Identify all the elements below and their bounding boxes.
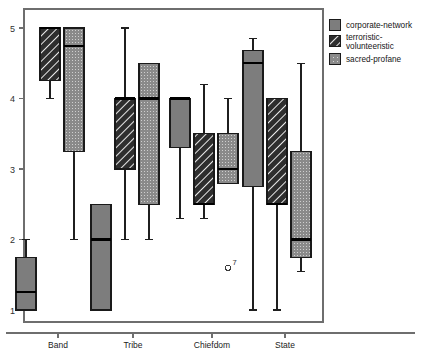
legend-swatch-terroristic-volunteeristic [329,35,340,46]
box-tribe-terroristic-volunteeristic [115,28,135,240]
x-label-chiefdom: Chiefdom [194,340,230,350]
box-series-layer [16,28,311,310]
box-rect [291,151,311,257]
legend-label-terroristic-line1: terroristic- [346,33,383,42]
boxplot-chart: 5 4 3 2 1 Band Tribe Chiefdom State 7 co… [0,0,421,358]
box-chiefdom-corporate-network [170,99,190,219]
box-tribe-corporate-network [91,204,111,310]
y-tick-label-4: 4 [10,94,15,104]
box-band-sacred-profane [64,28,84,240]
box-tribe-sacred-profane [139,63,159,239]
x-label-band: Band [48,340,68,350]
box-rect [91,204,111,310]
y-tick-label-1: 1 [10,306,15,316]
y-tick-label-5: 5 [10,24,15,34]
box-band-corporate-network [16,240,36,311]
box-state-sacred-profane [291,63,311,271]
x-label-state: State [275,340,295,350]
legend: corporate-network terroristic- volunteer… [329,19,413,64]
y-tick-label-3: 3 [10,165,15,175]
legend-swatch-corporate-network [329,19,340,30]
box-rect [115,99,135,170]
x-axis: Band Tribe Chiefdom State [6,333,415,350]
box-rect [40,28,60,81]
box-rect [267,99,287,205]
box-state-corporate-network [243,39,263,310]
box-rect [170,99,190,148]
outlier-marker [225,265,230,270]
box-chiefdom-sacred-profane [218,99,238,184]
plot-canvas: 5 4 3 2 1 Band Tribe Chiefdom State 7 co… [0,0,421,358]
box-band-terroristic-volunteeristic [40,28,60,99]
box-rect [16,257,36,310]
legend-label-corporate-network: corporate-network [346,21,413,30]
legend-swatch-sacred-profane [329,53,340,64]
box-rect [218,134,238,183]
legend-label-terroristic-line2: volunteeristic [346,42,394,51]
box-rect [243,51,263,187]
x-label-tribe: Tribe [123,340,142,350]
outliers-layer: 7 [225,258,236,271]
y-tick-label-2: 2 [10,235,15,245]
box-state-terroristic-volunteeristic [267,99,287,311]
box-chiefdom-terroristic-volunteeristic [194,84,214,218]
outlier-label: 7 [233,258,237,267]
box-rect [194,134,214,205]
legend-label-sacred-profane: sacred-profane [346,55,402,64]
box-rect [139,63,159,204]
